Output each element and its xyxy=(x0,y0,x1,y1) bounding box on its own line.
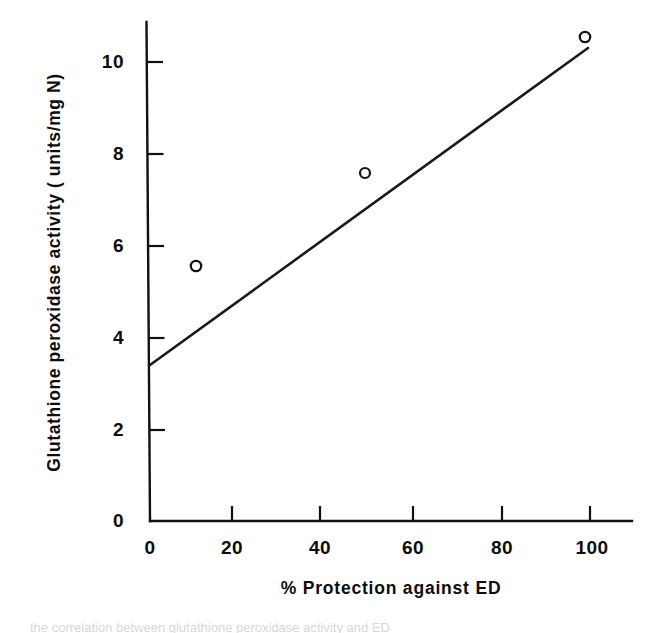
y-tick-label-6: 6 xyxy=(78,235,124,257)
x-tick-label-40: 40 xyxy=(309,537,331,559)
x-tick-label-20: 20 xyxy=(221,537,243,559)
y-tick-label-10: 10 xyxy=(78,51,124,73)
x-tick-label-100: 100 xyxy=(575,537,608,559)
x-tick-label-60: 60 xyxy=(402,537,424,559)
regression-line xyxy=(150,48,588,365)
x-axis-ticks xyxy=(232,506,590,521)
plot-area: 10 8 6 4 2 0 0 20 40 60 80 100 Glutathio… xyxy=(0,0,655,633)
data-points-group xyxy=(191,32,590,271)
y-axis-title: Glutathione peroxidase activity ( units/… xyxy=(44,13,65,533)
y-tick-label-8: 8 xyxy=(78,143,124,165)
y-tick-label-2: 2 xyxy=(78,419,124,441)
axes-group xyxy=(147,22,633,521)
y-tick-label-4: 4 xyxy=(78,327,124,349)
data-point-marker xyxy=(360,168,370,178)
x-tick-label-0: 0 xyxy=(144,537,155,559)
figure-container: 10 8 6 4 2 0 0 20 40 60 80 100 Glutathio… xyxy=(0,0,655,633)
x-axis-title: % Protection against ED xyxy=(150,578,632,599)
x-tick-label-80: 80 xyxy=(491,537,513,559)
y-tick-label-0: 0 xyxy=(78,510,124,532)
caption-remnant: the correlation between glutathione pero… xyxy=(30,620,630,633)
data-point-marker xyxy=(580,32,590,42)
y-axis-line xyxy=(147,22,151,521)
data-point-marker xyxy=(191,261,201,271)
